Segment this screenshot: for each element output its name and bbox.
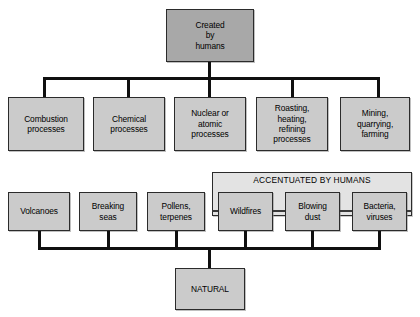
nuclear-line-2: atomic: [191, 119, 229, 129]
node-blowing-dust-text: Blowing dust: [298, 201, 327, 222]
nuclear-line-3: processes: [191, 129, 229, 139]
roasting-line-4: processes: [273, 134, 310, 144]
node-chemical-processes-text: Chemical processes: [110, 114, 147, 135]
wildfires-line-1: Wildfires: [230, 206, 261, 216]
node-mining-quarrying-farming[interactable]: Mining, quarrying, farming: [340, 97, 410, 151]
node-natural[interactable]: NATURAL: [175, 268, 245, 310]
connector-group-left-tab: [212, 210, 218, 212]
blowing-dust-line-2: dust: [298, 212, 327, 222]
node-natural-text: NATURAL: [191, 284, 229, 294]
chemical-line-2: processes: [110, 124, 147, 134]
connector-drop-mining: [377, 77, 380, 97]
roasting-line-2: heating,: [273, 114, 310, 124]
root-line-2: by: [195, 30, 224, 40]
node-bacteria-viruses[interactable]: Bacteria, viruses: [352, 192, 407, 231]
roasting-line-3: refining: [273, 124, 310, 134]
node-created-by-humans-text: Created by humans: [195, 20, 224, 51]
node-pollens-terpenes[interactable]: Pollens, terpenes: [147, 192, 205, 231]
node-wildfires[interactable]: Wildfires: [218, 192, 273, 231]
node-nuclear-atomic-processes-text: Nuclear or atomic processes: [191, 108, 229, 139]
node-mining-quarrying-farming-text: Mining, quarrying, farming: [357, 108, 393, 139]
blowing-dust-line-1: Blowing: [298, 201, 327, 211]
node-created-by-humans[interactable]: Created by humans: [166, 9, 254, 62]
pollens-line-1: Pollens,: [160, 201, 192, 211]
node-roasting-heating-refining-text: Roasting, heating, refining processes: [273, 103, 310, 145]
node-combustion-processes[interactable]: Combustion processes: [8, 97, 84, 151]
connector-human-bus: [43, 77, 380, 80]
roasting-line-1: Roasting,: [273, 103, 310, 113]
chemical-line-1: Chemical: [110, 114, 147, 124]
node-breaking-seas[interactable]: Breaking seas: [79, 192, 137, 231]
nuclear-line-1: Nuclear or: [191, 108, 229, 118]
combustion-line-2: processes: [24, 124, 68, 134]
bacteria-line-1: Bacteria,: [363, 201, 395, 211]
node-wildfires-text: Wildfires: [230, 206, 261, 216]
root-line-3: humans: [195, 41, 224, 51]
connector-drop-roasting: [291, 77, 294, 97]
pollens-line-2: terpenes: [160, 212, 192, 222]
node-bacteria-viruses-text: Bacteria, viruses: [363, 201, 395, 222]
breaking-seas-line-1: Breaking: [92, 201, 124, 211]
breaking-seas-line-2: seas: [92, 212, 124, 222]
node-breaking-seas-text: Breaking seas: [92, 201, 124, 222]
node-roasting-heating-refining[interactable]: Roasting, heating, refining processes: [256, 97, 328, 151]
root-line-1: Created: [195, 20, 224, 30]
connector-drop-nuclear: [208, 77, 211, 97]
node-blowing-dust[interactable]: Blowing dust: [285, 192, 340, 231]
mining-line-1: Mining,: [357, 108, 393, 118]
connector-drop-chemical: [127, 77, 130, 97]
node-chemical-processes[interactable]: Chemical processes: [93, 97, 165, 151]
combustion-line-1: Combustion: [24, 114, 68, 124]
node-volcanoes[interactable]: Volcanoes: [8, 192, 70, 231]
connector-blowing-dust-to-bacteria: [340, 210, 352, 212]
volcanoes-line-1: Volcanoes: [20, 206, 58, 216]
connector-drop-combustion: [43, 77, 46, 97]
node-pollens-terpenes-text: Pollens, terpenes: [160, 201, 192, 222]
group-accentuated-by-humans-title: ACCENTUATED BY HUMANS: [212, 175, 412, 185]
natural-label: NATURAL: [191, 284, 229, 294]
connector-wildfires-to-blowing-dust: [273, 210, 285, 212]
flowchart-canvas: Created by humans Combustion processes C…: [0, 0, 420, 317]
connector-natural-stem: [208, 247, 211, 268]
node-combustion-processes-text: Combustion processes: [24, 114, 68, 135]
node-nuclear-atomic-processes[interactable]: Nuclear or atomic processes: [174, 97, 246, 151]
connector-group-right-tab: [407, 210, 412, 212]
bacteria-line-2: viruses: [363, 212, 395, 222]
node-volcanoes-text: Volcanoes: [20, 206, 58, 216]
mining-line-3: farming: [357, 129, 393, 139]
mining-line-2: quarrying,: [357, 119, 393, 129]
